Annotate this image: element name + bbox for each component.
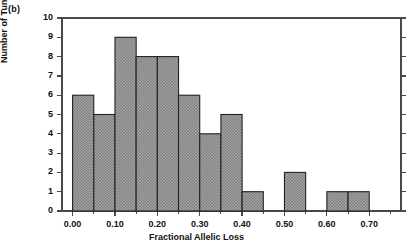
y-tick-label: 9: [31, 31, 53, 41]
x-tick-label: 0.20: [137, 219, 177, 229]
histogram-bar: [94, 115, 115, 212]
histogram-bar: [115, 37, 136, 211]
histogram-bar: [73, 95, 94, 211]
plot-area: [0, 0, 417, 248]
y-tick-label: 7: [31, 70, 53, 80]
y-tick-label: 10: [31, 12, 53, 22]
histogram-bar: [136, 57, 157, 211]
y-tick-label: 1: [31, 186, 53, 196]
x-tick-label: 0.70: [349, 219, 389, 229]
histogram-bar: [242, 192, 263, 211]
histogram-bar: [179, 95, 200, 211]
x-tick-label: 0.40: [222, 219, 262, 229]
bars: [73, 37, 370, 211]
x-tick-label: 0.50: [264, 219, 304, 229]
histogram-bar: [221, 115, 242, 212]
histogram-bar: [348, 192, 369, 211]
y-tick-label: 3: [31, 147, 53, 157]
x-tick-label: 0.60: [307, 219, 347, 229]
y-tick-label: 8: [31, 51, 53, 61]
x-tick-label: 0.10: [95, 219, 135, 229]
y-tick-label: 4: [31, 128, 53, 138]
histogram-bar: [284, 172, 305, 211]
x-tick-label: 0.00: [53, 219, 93, 229]
y-tick-label: 6: [31, 89, 53, 99]
histogram-bar: [157, 57, 178, 211]
histogram-bar: [200, 134, 221, 211]
y-tick-label: 0: [31, 205, 53, 215]
x-tick-label: 0.30: [180, 219, 220, 229]
y-tick-label: 5: [31, 109, 53, 119]
histogram-bar: [327, 192, 348, 211]
histogram-chart: Number of Tumors Fractional Allelic Loss…: [0, 0, 417, 248]
y-tick-label: 2: [31, 166, 53, 176]
